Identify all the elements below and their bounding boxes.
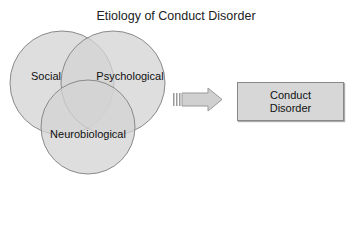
conduct-disorder-box: Conduct Disorder	[237, 82, 344, 121]
neurobiological-circle	[41, 80, 135, 174]
outcome-line1: Conduct	[270, 89, 311, 102]
arrow-icon	[173, 88, 222, 111]
psychological-label: Psychological	[96, 70, 163, 82]
outcome-line2: Disorder	[270, 102, 312, 115]
neurobiological-label: Neurobiological	[50, 128, 126, 140]
social-label: Social	[31, 70, 61, 82]
